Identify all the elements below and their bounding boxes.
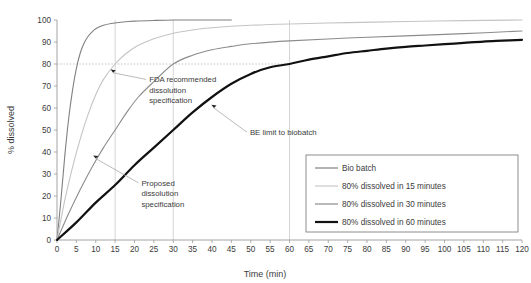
y-tick-label-60: 60 — [42, 104, 52, 113]
x-tick-label-85: 85 — [382, 245, 392, 254]
chart-svg: 0510152025303540455055606570758085909510… — [0, 0, 531, 283]
y-tick-label-0: 0 — [46, 236, 51, 245]
legend-label-1: 80% dissolved in 15 minutes — [342, 182, 446, 191]
x-tick-label-90: 90 — [401, 245, 411, 254]
x-tick-label-35: 35 — [188, 245, 198, 254]
y-tick-label-10: 10 — [42, 214, 52, 223]
y-tick-label-100: 100 — [37, 16, 51, 25]
x-tick-label-120: 120 — [515, 245, 529, 254]
y-tick-label-20: 20 — [42, 192, 52, 201]
x-tick-label-0: 0 — [55, 245, 60, 254]
annotation-text-2: BE limit to biobatch — [250, 128, 317, 137]
x-tick-label-100: 100 — [438, 245, 452, 254]
x-tick-label-40: 40 — [207, 245, 217, 254]
x-tick-label-115: 115 — [496, 245, 509, 254]
dissolution-profile-chart: 0510152025303540455055606570758085909510… — [0, 0, 531, 283]
x-tick-label-55: 55 — [266, 245, 276, 254]
y-tick-label-40: 40 — [42, 148, 52, 157]
x-tick-label-45: 45 — [227, 245, 237, 254]
x-axis-title: Time (min) — [244, 269, 287, 279]
y-axis-title: % dissolved — [6, 106, 16, 154]
y-tick-label-90: 90 — [42, 38, 52, 47]
x-tick-label-60: 60 — [285, 245, 295, 254]
y-tick-label-30: 30 — [42, 170, 52, 179]
x-tick-label-110: 110 — [477, 245, 490, 254]
x-tick-label-70: 70 — [324, 245, 334, 254]
x-tick-label-5: 5 — [74, 245, 79, 254]
x-tick-label-65: 65 — [304, 245, 314, 254]
x-tick-label-10: 10 — [91, 245, 101, 254]
y-tick-label-70: 70 — [42, 82, 52, 91]
legend-label-0: Bio batch — [342, 164, 377, 173]
legend-label-3: 80% dissolved in 60 minutes — [342, 218, 446, 227]
x-tick-label-20: 20 — [130, 245, 140, 254]
x-tick-label-15: 15 — [111, 245, 121, 254]
y-tick-label-80: 80 — [42, 60, 52, 69]
x-tick-label-105: 105 — [457, 245, 471, 254]
y-tick-label-50: 50 — [42, 126, 52, 135]
x-tick-label-30: 30 — [169, 245, 179, 254]
legend-label-2: 80% dissolved in 30 minutes — [342, 200, 446, 209]
x-tick-label-95: 95 — [421, 245, 431, 254]
x-tick-label-50: 50 — [246, 245, 256, 254]
x-tick-label-75: 75 — [343, 245, 353, 254]
x-tick-label-80: 80 — [362, 245, 372, 254]
chart-legend: Bio batch80% dissolved in 15 minutes80% … — [306, 155, 518, 232]
x-tick-label-25: 25 — [149, 245, 159, 254]
